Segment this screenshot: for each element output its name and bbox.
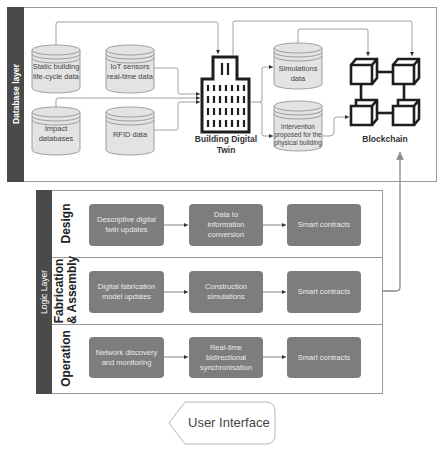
line: model updates [98, 292, 156, 302]
line: Construction [205, 282, 247, 292]
line: Impact [30, 124, 82, 134]
line: & Assembly [66, 258, 79, 324]
impact-data-label: Impact databases [30, 124, 82, 143]
line: Network discovery [96, 348, 157, 358]
process-box: Network discoveryand monitoring [89, 337, 164, 378]
process-box: Smart contracts [287, 337, 361, 378]
line: synchronisation [200, 363, 252, 373]
row-label-fabrication: Fabrication & Assembly [53, 258, 79, 324]
line: twin updates [97, 225, 156, 235]
line: bidirectional [200, 353, 252, 363]
process-box: Data toinformationconversion [189, 204, 263, 246]
process-box: Smart contracts [287, 271, 361, 313]
line: and monitoring [96, 358, 157, 368]
building-icon [202, 57, 249, 132]
iot-data-label: IoT sensors real-time data [104, 62, 156, 81]
line: life-cycle data [30, 72, 82, 82]
blockchain-icon [351, 59, 419, 125]
process-box: Descriptive digitaltwin updates [89, 204, 164, 246]
line: Building Digital [186, 134, 266, 145]
line: Twin [186, 145, 266, 156]
row-label-operation: Operation [60, 324, 73, 394]
line: Data to [207, 210, 244, 220]
process-box: Real-timebidirectionalsynchronisation [189, 337, 263, 378]
process-box: Smart contracts [287, 204, 361, 246]
user-interface-label: User Interface [188, 415, 270, 430]
logic-to-blockchain-arrow [383, 152, 400, 291]
digital-twin-label: Building Digital Twin [186, 134, 266, 156]
line: Descriptive digital [97, 215, 156, 225]
line: Real-time [200, 343, 252, 353]
process-box: Constructionsimulations [189, 271, 263, 313]
line: Design [59, 204, 73, 244]
intervention-label: Intervention proposed for the physical b… [270, 123, 326, 147]
line: proposed for the [270, 131, 326, 139]
line: Smart contracts [298, 353, 351, 363]
line: RFID data [104, 130, 156, 140]
line: Blockchain [345, 134, 425, 145]
line: data [272, 74, 324, 84]
simulations-data-label: Simulations data [272, 64, 324, 83]
line: information [207, 220, 244, 230]
row-label-design: Design [60, 194, 73, 254]
line: databases [30, 134, 82, 144]
line: Intervention [270, 123, 326, 131]
line: Simulations [272, 64, 324, 74]
line: Static building [30, 62, 82, 72]
line: real-time data [104, 72, 156, 82]
rfid-data-label: RFID data [104, 130, 156, 140]
line: Digital fabrication [98, 282, 156, 292]
static-data-label: Static building life-cycle data [30, 62, 82, 81]
line: physical building [270, 139, 326, 147]
blockchain-label: Blockchain [345, 134, 425, 145]
line: Smart contracts [298, 220, 351, 230]
line: Smart contracts [298, 287, 351, 297]
line: conversion [207, 230, 244, 240]
line: IoT sensors [104, 62, 156, 72]
process-box: Digital fabricationmodel updates [89, 271, 164, 313]
line: Operation [59, 330, 73, 387]
line: simulations [205, 292, 247, 302]
